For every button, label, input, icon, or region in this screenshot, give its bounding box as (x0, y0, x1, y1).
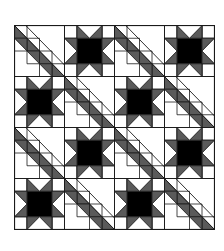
quilt-block-star (115, 77, 165, 128)
quilt-pattern (14, 25, 215, 230)
quilt-block-star (15, 179, 65, 230)
quilt-block-diagonal (65, 179, 115, 230)
quilt-block-star (115, 179, 165, 230)
quilt-block-diagonal (165, 77, 215, 128)
quilt-block-diagonal (15, 128, 65, 179)
quilt-block-diagonal (165, 179, 215, 230)
quilt-image (14, 25, 215, 230)
quilt-block-star (65, 26, 115, 77)
quilt-block-star (65, 128, 115, 179)
quilt-block-diagonal (65, 77, 115, 128)
quilt-block-star (165, 26, 215, 77)
quilt-block-star (15, 77, 65, 128)
quilt-block-diagonal (15, 26, 65, 77)
quilt-block-diagonal (115, 26, 165, 77)
quilt-block-star (165, 128, 215, 179)
quilt-block-diagonal (115, 128, 165, 179)
